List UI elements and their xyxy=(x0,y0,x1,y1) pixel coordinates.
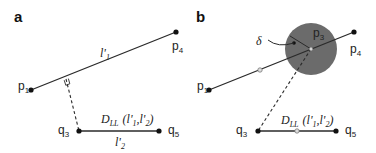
point-p3 xyxy=(310,48,313,51)
panel-b: b δ p1 p3 p4 q3 q5 DLL(l'1,l'2) xyxy=(196,8,362,139)
panel-b-label: b xyxy=(196,8,205,25)
point-p1 xyxy=(28,87,33,92)
right-angle-marker xyxy=(64,79,70,86)
point-q3 xyxy=(76,128,81,133)
perpendicular-dashed-line xyxy=(66,79,79,131)
point-p4-b xyxy=(351,29,356,34)
panel-a: a p1 p4 q3 q5 l'1 l'2 DLL(l'1,l'2) xyxy=(14,8,184,151)
label-p1-b: p1 xyxy=(197,79,209,95)
segment-l1 xyxy=(31,32,176,90)
midpoint-marker-l1 xyxy=(258,68,262,72)
label-q5: q5 xyxy=(168,123,180,139)
label-q5-b: q5 xyxy=(345,123,357,139)
midpoint-marker-l2 xyxy=(295,129,299,133)
label-q3: q3 xyxy=(58,123,70,139)
distance-label-b: DLL(l'1,l'2) xyxy=(280,113,333,129)
point-p4 xyxy=(173,29,178,34)
figure: a p1 p4 q3 q5 l'1 l'2 DLL(l'1,l'2) b xyxy=(0,0,376,153)
label-p4-b: p4 xyxy=(350,42,362,58)
label-l2: l'2 xyxy=(115,135,125,151)
point-q5 xyxy=(156,128,161,133)
label-delta: δ xyxy=(256,34,262,48)
panel-a-label: a xyxy=(14,8,23,25)
distance-label-a: DLL(l'1,l'2) xyxy=(100,112,153,128)
label-q3-b: q3 xyxy=(236,123,248,139)
point-q3-b xyxy=(255,128,260,133)
label-p1: p1 xyxy=(18,79,30,95)
point-q5-b xyxy=(333,128,338,133)
label-p4: p4 xyxy=(172,39,184,55)
label-l1: l'1 xyxy=(100,46,110,62)
